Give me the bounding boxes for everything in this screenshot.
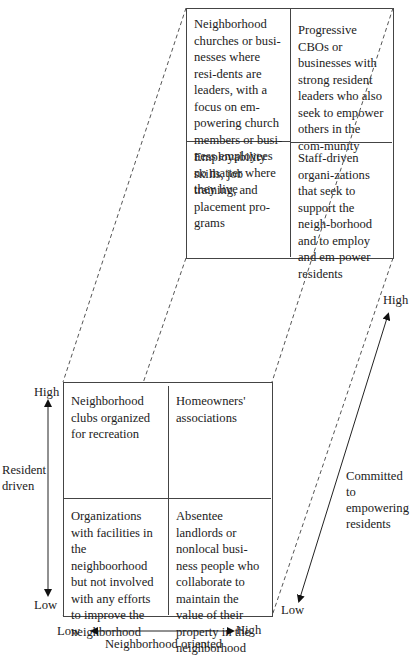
upper-matrix: Neighborhood churches or busi-nesses whe… bbox=[186, 8, 394, 259]
depth-axis-label: Committed to empowering residents bbox=[346, 468, 412, 532]
depth-high-label: High bbox=[383, 292, 408, 308]
upper-bottom-right-cell: Staff-driven organi-zations that seek to… bbox=[291, 142, 392, 257]
vertical-low-label: Low bbox=[34, 597, 57, 613]
vertical-axis-label: Resident driven bbox=[2, 462, 46, 494]
upper-bottom-left-cell: Employability skills, job training, and … bbox=[187, 142, 291, 257]
lower-matrix: Neighborhood clubs organized for recreat… bbox=[63, 382, 273, 617]
depth-axis-label-line2: empowering bbox=[346, 500, 412, 516]
vertical-axis-label-line1: Resident bbox=[2, 462, 46, 478]
lower-bottom-right-cell: Absentee landlords or nonlocal busi-ness… bbox=[169, 498, 271, 615]
lower-bottom-left-cell: Organizations with facilities in the nei… bbox=[64, 498, 169, 615]
depth-axis-label-line3: residents bbox=[346, 516, 412, 532]
depth-low-label: Low bbox=[281, 602, 304, 618]
horizontal-axis-label: Neighborhood oriented bbox=[105, 636, 222, 652]
depth-axis-label-line1: Committed to bbox=[346, 468, 412, 500]
horizontal-high-label: High bbox=[236, 622, 261, 638]
vertical-axis-label-line2: driven bbox=[2, 478, 46, 494]
upper-top-right-cell: Progressive CBOs or businesses with stro… bbox=[291, 15, 392, 142]
vertical-high-label: High bbox=[34, 384, 59, 400]
lower-top-right-cell: Homeowners' associations bbox=[169, 386, 271, 499]
upper-top-left-cell: Neighborhood churches or busi-nesses whe… bbox=[187, 9, 291, 142]
lower-top-left-cell: Neighborhood clubs organized for recreat… bbox=[64, 386, 169, 499]
horizontal-low-label: Low bbox=[57, 623, 80, 639]
